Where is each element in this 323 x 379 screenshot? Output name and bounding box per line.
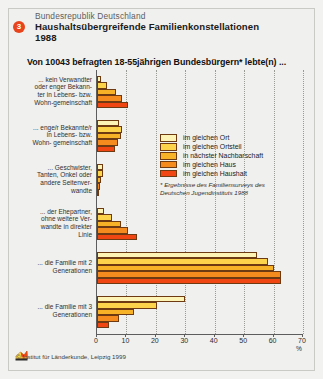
figure-number-badge: 3 bbox=[13, 21, 25, 33]
category-label-line: ... die Familie mit 3 bbox=[12, 303, 92, 311]
bar bbox=[97, 177, 101, 184]
category-label-line: ohne weitere Ver- bbox=[12, 215, 92, 223]
bar bbox=[97, 170, 103, 177]
bar bbox=[97, 126, 122, 133]
bar bbox=[97, 214, 112, 221]
tick-label-0: 0 bbox=[86, 337, 106, 344]
bar bbox=[97, 265, 274, 272]
category-label-line: ... Geschwister, bbox=[12, 164, 92, 172]
category-label: ... der Ehepartner,ohne weitere Ver-wand… bbox=[12, 208, 92, 238]
bar-group bbox=[97, 208, 302, 241]
axis-unit-label: % bbox=[296, 345, 302, 352]
bar bbox=[97, 164, 103, 171]
header-title-line1: Haushaltsübergreifende Familienkonstella… bbox=[35, 21, 303, 32]
gridline-40 bbox=[215, 70, 216, 334]
bar bbox=[97, 302, 157, 309]
bar bbox=[97, 208, 104, 215]
category-label: ... die Familie mit 3Generationen bbox=[12, 303, 92, 318]
bar bbox=[97, 82, 107, 89]
legend-swatch bbox=[160, 161, 177, 168]
legend-label: im gleichen Haus bbox=[183, 161, 236, 170]
bar bbox=[97, 258, 268, 265]
footnote: * Ergebnisse des Familiensurveys des Deu… bbox=[160, 181, 296, 196]
plot-area bbox=[96, 70, 302, 334]
legend-item: im gleichen Ort bbox=[160, 134, 292, 143]
bar bbox=[97, 271, 281, 278]
bar bbox=[97, 296, 185, 303]
bar bbox=[97, 76, 101, 83]
bar bbox=[97, 234, 137, 241]
bar bbox=[97, 322, 109, 329]
category-label-line: Generationen bbox=[12, 267, 92, 275]
bar bbox=[97, 315, 119, 322]
bar bbox=[97, 95, 122, 102]
legend-label: im gleichen Haushalt bbox=[183, 170, 247, 179]
category-label-line: oder enger Bekann- bbox=[12, 83, 92, 91]
bar bbox=[97, 252, 257, 259]
category-label: ... kein Verwandteroder enger Bekann-ter… bbox=[12, 76, 92, 106]
infographic-page: 3 Bundesrepublik Deutschland Haushaltsüb… bbox=[0, 0, 323, 379]
bar bbox=[97, 227, 128, 234]
category-label-line: ... kein Verwandter bbox=[12, 76, 92, 84]
header-title: Haushaltsübergreifende Familienkonstella… bbox=[35, 21, 303, 43]
bar bbox=[97, 190, 99, 197]
category-label-line: wandte in direkter bbox=[12, 223, 92, 231]
bar bbox=[97, 309, 134, 316]
gridline-60 bbox=[274, 70, 275, 334]
bar bbox=[97, 278, 281, 285]
tick-label-70: 70 bbox=[292, 337, 312, 344]
bar-group bbox=[97, 252, 302, 285]
header-title-year: 1988 bbox=[35, 32, 303, 43]
copyright-text: © Institut für Länderkunde, Leipzig 1999 bbox=[16, 353, 126, 360]
bar bbox=[97, 89, 116, 96]
legend-item: im gleichen Ortsteil bbox=[160, 143, 292, 152]
legend: im gleichen Ortim gleichen Ortsteilin nä… bbox=[160, 134, 292, 178]
x-axis-line bbox=[96, 334, 302, 335]
legend-item: in nächster Nachbarschaft bbox=[160, 152, 292, 161]
question-line: Von 10043 befragten 18-55jährigen Bundes… bbox=[27, 57, 286, 67]
category-label-line: Wohn-gemeinschaft bbox=[12, 99, 92, 107]
legend-swatch bbox=[160, 170, 177, 177]
bar bbox=[97, 146, 115, 153]
tick-label-50: 50 bbox=[233, 337, 253, 344]
legend-swatch bbox=[160, 134, 177, 141]
tick-label-30: 30 bbox=[174, 337, 194, 344]
bar bbox=[97, 221, 121, 228]
category-label-line: Linie bbox=[12, 231, 92, 239]
bar bbox=[97, 133, 121, 140]
legend-label: im gleichen Ortsteil bbox=[183, 143, 242, 152]
tick-label-10: 10 bbox=[115, 337, 135, 344]
gridline-20 bbox=[156, 70, 157, 334]
category-label-line: Wohn- gemeinschaft bbox=[12, 139, 92, 147]
category-label-line: ... der Ehepartner, bbox=[12, 208, 92, 216]
bar bbox=[97, 120, 119, 127]
category-label-line: andere Seitenver- bbox=[12, 179, 92, 187]
gridline-50 bbox=[244, 70, 245, 334]
category-label-line: ... enge/r Bekannte/r bbox=[12, 124, 92, 132]
legend-label: in nächster Nachbarschaft bbox=[183, 152, 263, 161]
legend-swatch bbox=[160, 143, 177, 150]
gridline-10 bbox=[126, 70, 127, 334]
legend-item: im gleichen Haus bbox=[160, 161, 292, 170]
bar bbox=[97, 102, 128, 109]
category-label-line: Tanten, Onkel oder bbox=[12, 171, 92, 179]
tick-label-20: 20 bbox=[145, 337, 165, 344]
bar bbox=[97, 139, 118, 146]
bar-group bbox=[97, 296, 302, 329]
category-label-line: Generationen bbox=[12, 311, 92, 319]
category-label: ... enge/r Bekannte/rin Lebens- bzw.Wohn… bbox=[12, 124, 92, 147]
legend-label: im gleichen Ort bbox=[183, 134, 229, 143]
category-label-line: ter in Lebens- bzw. bbox=[12, 91, 92, 99]
category-label: ... Geschwister,Tanten, Onkel oderandere… bbox=[12, 164, 92, 194]
bar-group bbox=[97, 76, 302, 109]
category-label-line: ... die Familie mit 2 bbox=[12, 259, 92, 267]
tick-label-40: 40 bbox=[204, 337, 224, 344]
category-label-line: wandte bbox=[12, 187, 92, 195]
category-label: ... die Familie mit 2Generationen bbox=[12, 259, 92, 274]
legend-swatch bbox=[160, 152, 177, 159]
legend-item: im gleichen Haushalt bbox=[160, 170, 292, 179]
tick-label-60: 60 bbox=[263, 337, 283, 344]
header-country: Bundesrepublik Deutschland bbox=[35, 11, 303, 21]
gridline-70 bbox=[303, 70, 304, 334]
bar bbox=[97, 183, 100, 190]
